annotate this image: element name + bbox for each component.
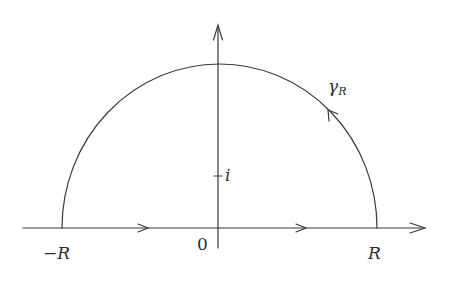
label-r: R	[368, 245, 381, 262]
contour-diagram: −R R 0 i γR	[0, 0, 450, 285]
label-gamma-r: γR	[328, 78, 346, 95]
label-origin: 0	[197, 236, 208, 253]
label-i: i	[225, 167, 230, 184]
gamma-subscript: R	[338, 85, 346, 98]
gamma-symbol: γ	[328, 76, 338, 96]
label-minus-r: −R	[43, 245, 70, 262]
arc-direction-arrow-icon	[328, 110, 338, 121]
